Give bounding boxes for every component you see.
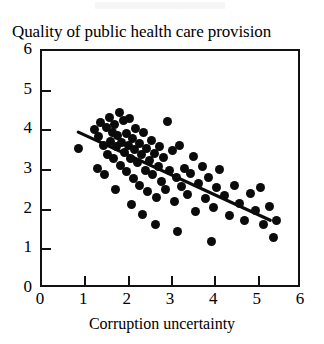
data-point bbox=[74, 144, 83, 153]
data-point bbox=[159, 153, 168, 162]
data-point bbox=[201, 194, 210, 203]
data-point bbox=[230, 181, 239, 190]
data-point bbox=[142, 144, 151, 153]
page-title: Quality of public health care provision bbox=[12, 22, 312, 41]
data-point bbox=[147, 136, 156, 145]
data-point bbox=[94, 132, 103, 141]
data-point bbox=[148, 170, 157, 179]
data-point bbox=[186, 169, 195, 178]
x-axis-tick-label: 2 bbox=[114, 290, 140, 307]
data-point bbox=[133, 158, 142, 167]
plot-area bbox=[40, 49, 300, 287]
data-point bbox=[240, 216, 249, 225]
x-axis-tick-label: 1 bbox=[70, 290, 96, 307]
data-point bbox=[155, 142, 164, 151]
data-point bbox=[127, 200, 136, 209]
data-point bbox=[209, 203, 218, 212]
data-point bbox=[191, 207, 200, 216]
data-point bbox=[154, 162, 163, 171]
y-axis-tick-label: 5 bbox=[6, 80, 32, 97]
data-point bbox=[225, 211, 234, 220]
data-point bbox=[173, 227, 182, 236]
data-point bbox=[207, 237, 216, 246]
data-point bbox=[163, 117, 172, 126]
data-point bbox=[220, 191, 229, 200]
data-point bbox=[151, 220, 160, 229]
x-axis-tick-label: 0 bbox=[27, 290, 53, 307]
data-point bbox=[138, 210, 147, 219]
x-axis-tick-label: 6 bbox=[287, 290, 313, 307]
data-point bbox=[204, 173, 213, 182]
y-axis-tick-label: 3 bbox=[6, 159, 32, 176]
data-point bbox=[215, 165, 224, 174]
data-point bbox=[246, 189, 255, 198]
data-point bbox=[259, 220, 268, 229]
data-point bbox=[256, 183, 265, 192]
data-point bbox=[172, 173, 181, 182]
data-point bbox=[143, 187, 152, 196]
scan-artifact bbox=[95, 2, 225, 9]
data-point bbox=[269, 233, 278, 242]
x-axis-title: Corruption uncertainty bbox=[0, 315, 324, 333]
data-point bbox=[93, 164, 102, 173]
data-point bbox=[198, 162, 207, 171]
x-axis-tick-label: 5 bbox=[244, 290, 270, 307]
scatter-plot-figure: Quality of public health care provision … bbox=[0, 0, 324, 344]
data-point bbox=[265, 202, 274, 211]
x-axis-tick-label: 4 bbox=[200, 290, 226, 307]
data-points-layer bbox=[42, 51, 298, 285]
data-point bbox=[110, 120, 119, 129]
data-point bbox=[235, 199, 244, 208]
data-point bbox=[194, 179, 203, 188]
data-point bbox=[183, 190, 192, 199]
data-point bbox=[212, 183, 221, 192]
y-axis-tick-label: 6 bbox=[6, 40, 32, 57]
data-point bbox=[251, 206, 260, 215]
data-point bbox=[125, 114, 134, 123]
y-axis-tick-label: 4 bbox=[6, 119, 32, 136]
data-point bbox=[100, 170, 109, 179]
y-axis-tick-label: 2 bbox=[6, 199, 32, 216]
data-point bbox=[111, 185, 120, 194]
data-point bbox=[152, 193, 161, 202]
data-point bbox=[189, 152, 198, 161]
data-point bbox=[161, 185, 170, 194]
data-point bbox=[272, 216, 281, 225]
y-axis-tick-label: 1 bbox=[6, 238, 32, 255]
x-axis-tick-label: 3 bbox=[157, 290, 183, 307]
data-point bbox=[139, 128, 148, 137]
data-point bbox=[170, 197, 179, 206]
data-point bbox=[175, 141, 184, 150]
